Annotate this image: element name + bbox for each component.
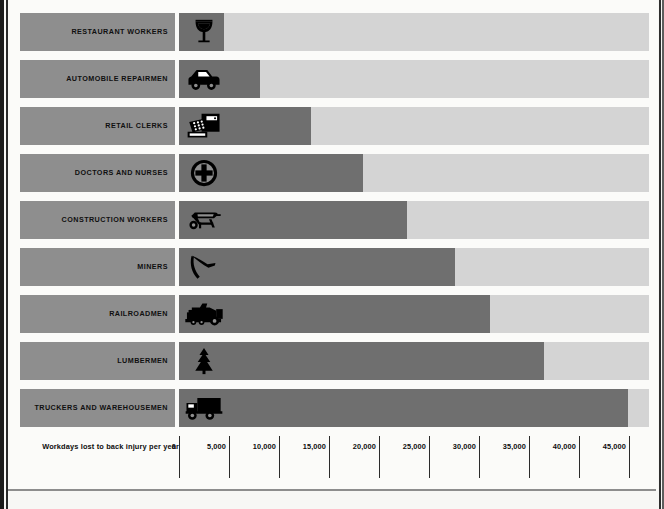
bar-track <box>179 248 649 286</box>
bar-chart: RESTAURANT WORKERS AUTOMOBILE REPAIRMEN … <box>12 8 656 486</box>
page-right-edge <box>659 0 661 509</box>
category-label: RESTAURANT WORKERS <box>71 28 168 36</box>
bar-row-list: RESTAURANT WORKERS AUTOMOBILE REPAIRMEN … <box>12 13 656 436</box>
category-label: AUTOMOBILE REPAIRMEN <box>66 75 168 83</box>
axis-tick-label: 25,000 <box>403 442 426 451</box>
axis-tick-label: 30,000 <box>453 442 476 451</box>
category-label-box: CONSTRUCTION WORKERS <box>20 201 175 239</box>
axis-tick-line <box>529 436 530 478</box>
axis-tick-line <box>329 436 330 478</box>
category-label-box: LUMBERMEN <box>20 342 175 380</box>
box-truck-icon <box>181 389 227 427</box>
axis-tick-label: 20,000 <box>353 442 376 451</box>
axis-tick-label: 0 <box>172 442 176 451</box>
axis-tick-line <box>579 436 580 478</box>
bar-fill <box>179 389 628 427</box>
bar-track <box>179 107 649 145</box>
table-row: AUTOMOBILE REPAIRMEN <box>12 60 656 98</box>
table-row: RAILROADMEN <box>12 295 656 333</box>
axis-tick-label: 45,000 <box>603 442 626 451</box>
infographic-page: RESTAURANT WORKERS AUTOMOBILE REPAIRMEN … <box>0 0 664 509</box>
bar-track <box>179 13 649 51</box>
x-axis: Workdays lost to back injury per year 05… <box>20 436 652 482</box>
axis-tick-line <box>279 436 280 478</box>
axis-tick-label: 5,000 <box>207 442 226 451</box>
axis-tick-label: 10,000 <box>253 442 276 451</box>
table-row: DOCTORS AND NURSES <box>12 154 656 192</box>
cash-register-icon <box>181 107 227 145</box>
axis-tick-line <box>429 436 430 478</box>
wheelbarrow-icon <box>181 201 227 239</box>
table-row: CONSTRUCTION WORKERS <box>12 201 656 239</box>
axis-tick-label: 15,000 <box>303 442 326 451</box>
pickaxe-icon <box>181 248 227 286</box>
bar-track <box>179 295 649 333</box>
category-label-box: RETAIL CLERKS <box>20 107 175 145</box>
page-spine-edge <box>0 0 4 509</box>
category-label: CONSTRUCTION WORKERS <box>62 216 168 224</box>
category-label-box: RAILROADMEN <box>20 295 175 333</box>
bar-track <box>179 342 649 380</box>
category-label: RETAIL CLERKS <box>105 122 168 130</box>
category-label-box: TRUCKERS AND WAREHOUSEMEN <box>20 389 175 427</box>
category-label: MINERS <box>137 263 168 271</box>
category-label: DOCTORS AND NURSES <box>75 169 168 177</box>
category-label-box: AUTOMOBILE REPAIRMEN <box>20 60 175 98</box>
page-bottom-edge <box>8 489 656 491</box>
table-row: LUMBERMEN <box>12 342 656 380</box>
x-axis-caption: Workdays lost to back injury per year <box>20 442 179 451</box>
medical-cross-icon <box>181 154 227 192</box>
axis-tick-label: 40,000 <box>553 442 576 451</box>
pine-tree-icon <box>181 342 227 380</box>
bar-track <box>179 389 649 427</box>
wine-glass-icon <box>181 13 227 51</box>
page-spine-edge-inner <box>6 0 8 509</box>
category-label: TRUCKERS AND WAREHOUSEMEN <box>34 404 168 412</box>
axis-tick-line <box>229 436 230 478</box>
axis-tick-line <box>179 436 180 478</box>
bar-track <box>179 60 649 98</box>
table-row: MINERS <box>12 248 656 286</box>
axis-tick-line <box>479 436 480 478</box>
table-row: RETAIL CLERKS <box>12 107 656 145</box>
bar-track <box>179 201 649 239</box>
axis-tick-line <box>629 436 630 478</box>
category-label-box: DOCTORS AND NURSES <box>20 154 175 192</box>
bar-track <box>179 154 649 192</box>
category-label-box: RESTAURANT WORKERS <box>20 13 175 51</box>
locomotive-icon <box>181 295 227 333</box>
table-row: TRUCKERS AND WAREHOUSEMEN <box>12 389 656 427</box>
category-label-box: MINERS <box>20 248 175 286</box>
bar-fill <box>179 342 544 380</box>
category-label: LUMBERMEN <box>117 357 168 365</box>
axis-tick-line <box>379 436 380 478</box>
category-label: RAILROADMEN <box>109 310 168 318</box>
axis-tick-label: 35,000 <box>503 442 526 451</box>
table-row: RESTAURANT WORKERS <box>12 13 656 51</box>
car-icon <box>181 60 227 98</box>
